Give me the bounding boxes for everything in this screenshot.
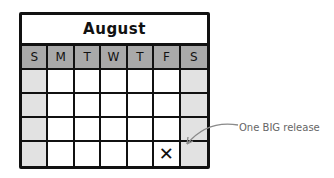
day-cell (128, 70, 154, 94)
day-cell (154, 118, 180, 142)
day-cell (48, 118, 74, 142)
weekday-sunday: S (22, 46, 48, 70)
day-cell (128, 94, 154, 118)
day-cell-marked: ✕ (154, 142, 180, 166)
weekday-saturday: S (181, 46, 207, 70)
x-mark-icon: ✕ (159, 145, 174, 163)
month-title: August (22, 15, 207, 46)
day-cell (75, 94, 101, 118)
day-cell (22, 118, 48, 142)
arrow-icon (180, 118, 240, 148)
day-cell (154, 70, 180, 94)
day-cell (22, 94, 48, 118)
day-cell (101, 142, 127, 166)
weekday-thursday: T (128, 46, 154, 70)
day-cell (101, 94, 127, 118)
day-cell (181, 70, 207, 94)
annotation-label: One BIG release (239, 122, 320, 133)
day-cell (48, 142, 74, 166)
weekday-monday: M (48, 46, 74, 70)
day-cell (75, 142, 101, 166)
weekday-tuesday: T (75, 46, 101, 70)
day-cell (48, 70, 74, 94)
day-cell (154, 94, 180, 118)
day-cell (128, 142, 154, 166)
day-cell (75, 118, 101, 142)
day-cell (75, 70, 101, 94)
calendar-grid: S M T W T F S ✕ (22, 46, 207, 166)
day-cell (181, 94, 207, 118)
day-cell (48, 94, 74, 118)
day-cell (22, 70, 48, 94)
day-cell (101, 118, 127, 142)
weekday-wednesday: W (101, 46, 127, 70)
day-cell (128, 118, 154, 142)
day-cell (22, 142, 48, 166)
weekday-friday: F (154, 46, 180, 70)
day-cell (101, 70, 127, 94)
